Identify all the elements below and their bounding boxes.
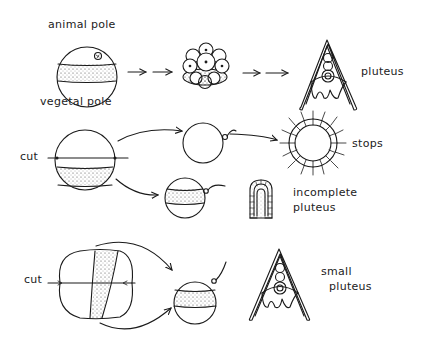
arrow <box>230 134 277 140</box>
label-small-pluteus: pluteus <box>329 281 372 293</box>
egg-horizontal-cut <box>48 130 128 190</box>
arrow <box>118 130 182 141</box>
cleavage-embryo <box>183 43 229 89</box>
pluteus-larva <box>300 40 357 110</box>
egg-vertical-cut <box>48 250 135 319</box>
vegetal-half-fragment <box>165 178 225 218</box>
animal-half-fragment <box>183 123 236 163</box>
label-incomplete: incomplete <box>293 187 357 199</box>
arrow <box>116 179 158 195</box>
label-incomplete-pluteus: pluteus <box>293 202 336 214</box>
label-cut-horizontal: cut <box>20 151 38 163</box>
label-cut-vertical: cut <box>24 274 42 286</box>
meridional-half-fragment <box>174 262 226 324</box>
small-pluteus <box>249 249 309 320</box>
label-vegetal-pole: vegetal pole <box>40 96 112 108</box>
diagram-canvas <box>0 0 425 349</box>
label-small: small <box>321 266 352 278</box>
label-stops: stops <box>352 138 383 150</box>
stopped-blastula <box>280 111 346 175</box>
label-animal-pole: animal pole <box>48 19 116 31</box>
incomplete-pluteus <box>250 180 272 218</box>
label-pluteus: pluteus <box>361 66 404 78</box>
